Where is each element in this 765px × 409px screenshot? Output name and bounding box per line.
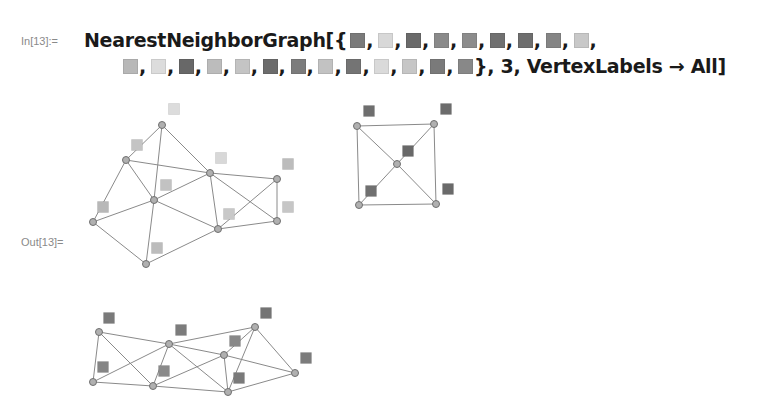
vertex-label-swatch [132, 140, 143, 151]
graph-edge [93, 382, 153, 386]
graph-edge [218, 179, 277, 229]
vertex-label-swatch [104, 313, 115, 324]
graph-edge [146, 200, 154, 264]
graph-edge [169, 344, 224, 355]
graph-vertex[interactable] [221, 352, 228, 359]
graph-edge [397, 124, 434, 164]
graph-vertex[interactable] [274, 218, 281, 225]
graph-edge [357, 126, 359, 205]
vertex-label-swatch [152, 243, 163, 254]
vertex-label-swatch [364, 106, 375, 117]
graph-vertex[interactable] [150, 383, 157, 390]
graph-vertex[interactable] [207, 170, 214, 177]
vertex-label-swatch [98, 202, 109, 213]
graph-edge [126, 160, 154, 200]
vertex-label-swatch [443, 184, 454, 195]
graph-vertex[interactable] [225, 389, 232, 396]
graph-edge [169, 344, 228, 392]
vertex-label-swatch [283, 202, 294, 213]
graph-vertex[interactable] [252, 324, 259, 331]
graph-edge [224, 355, 228, 392]
vertex-label-swatch [176, 325, 187, 336]
graph-vertex[interactable] [151, 197, 158, 204]
graph-edge [357, 124, 434, 126]
graph-edge [357, 126, 397, 164]
vertex-label-swatch [234, 373, 245, 384]
vertex-label-swatch [169, 104, 180, 115]
graph-edge [93, 332, 99, 382]
vertex-label-swatch [98, 362, 109, 373]
vertex-label-swatch [159, 366, 170, 377]
output-graph-plot[interactable] [0, 0, 765, 409]
graph-vertex[interactable] [90, 379, 97, 386]
graph-vertex[interactable] [433, 201, 440, 208]
graph-edge [359, 164, 397, 205]
graph-vertex[interactable] [354, 123, 361, 130]
graph-vertex[interactable] [394, 161, 401, 168]
graph-edge [93, 222, 146, 264]
graph-component-1 [90, 104, 294, 268]
graph-edge [397, 164, 436, 204]
graph-edge [210, 173, 277, 179]
vertex-label-swatch [230, 336, 241, 347]
vertex-label-swatch [161, 180, 172, 191]
graph-edge [210, 173, 277, 221]
graph-vertex[interactable] [143, 261, 150, 268]
vertex-label-swatch [283, 159, 294, 170]
graph-component-3 [90, 308, 312, 396]
graph-edge [218, 221, 277, 229]
graph-vertex[interactable] [159, 122, 166, 129]
graph-vertex[interactable] [274, 176, 281, 183]
vertex-label-swatch [403, 146, 414, 157]
graph-vertex[interactable] [123, 157, 130, 164]
graph-edge [162, 125, 210, 173]
graph-edge [255, 327, 295, 373]
graph-edge [153, 386, 228, 392]
graph-edge [434, 124, 436, 204]
vertex-label-swatch [261, 308, 272, 319]
vertex-label-swatch [441, 104, 452, 115]
vertex-label-swatch [224, 209, 235, 220]
vertex-label-swatch [301, 353, 312, 364]
graph-vertex[interactable] [431, 121, 438, 128]
graph-edge [126, 160, 210, 173]
graph-vertex[interactable] [96, 329, 103, 336]
graph-edge [210, 173, 218, 229]
graph-vertex[interactable] [215, 226, 222, 233]
graph-vertex[interactable] [356, 202, 363, 209]
graph-vertex[interactable] [90, 219, 97, 226]
vertex-label-swatch [216, 153, 227, 164]
graph-edge [154, 200, 218, 229]
graph-edge [359, 204, 436, 205]
graph-vertex[interactable] [292, 370, 299, 377]
graph-edge [224, 355, 295, 373]
graph-vertex[interactable] [166, 341, 173, 348]
graph-component-2 [354, 104, 454, 209]
vertex-label-swatch [366, 186, 377, 197]
